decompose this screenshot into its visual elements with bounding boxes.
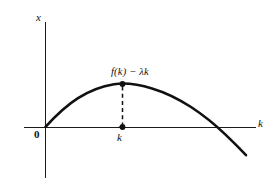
khat-glyph-stack: ˆ k xyxy=(117,132,122,143)
caret-accent-icon: ˆ xyxy=(118,126,121,136)
figure-canvas xyxy=(0,0,280,189)
x-axis-label: k xyxy=(258,118,263,129)
khat-label: ˆ k xyxy=(117,132,122,143)
y-axis-label: x xyxy=(36,12,41,23)
peak-point-marker xyxy=(120,81,126,87)
origin-label: 0 xyxy=(34,129,40,140)
curve-equation-label: f(k) − λk xyxy=(111,67,149,78)
function-curve xyxy=(46,84,247,156)
figure-container: x k 0 f(k) − λk ˆ k xyxy=(0,0,280,189)
